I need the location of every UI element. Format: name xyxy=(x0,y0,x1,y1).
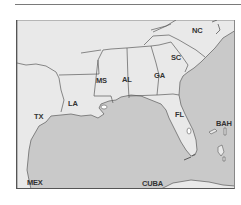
label-bah: BAH xyxy=(216,120,232,128)
label-ga: GA xyxy=(154,72,165,80)
southeast-us-map: NC SC MS AL GA LA TX FL BAH MEX CUBA xyxy=(16,20,235,189)
label-mex: MEX xyxy=(27,179,43,187)
label-cuba: CUBA xyxy=(142,180,163,188)
label-fl: FL xyxy=(175,111,184,119)
label-sc: SC xyxy=(171,54,181,62)
top-divider xyxy=(15,4,241,5)
label-ms: MS xyxy=(96,77,107,85)
lake-pontchartrain xyxy=(101,105,107,109)
label-nc: NC xyxy=(192,27,202,35)
map-graphic xyxy=(17,20,235,189)
label-tx: TX xyxy=(34,113,43,121)
lake-okeechobee xyxy=(187,128,191,134)
label-al: AL xyxy=(122,76,132,84)
label-la: LA xyxy=(68,100,78,108)
